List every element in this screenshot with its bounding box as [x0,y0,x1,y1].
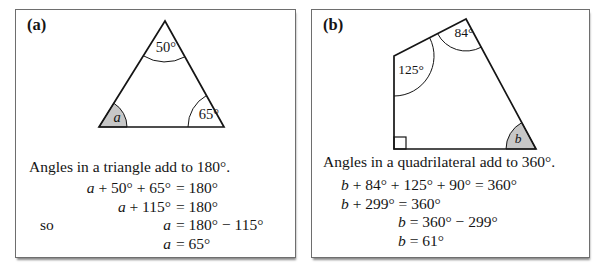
equation-lhs: a + 115° [67,198,171,217]
equation-row: a + 115°= 180° [16,198,295,217]
equation-lhs: a [67,235,171,254]
equation-rhs: = 180° [171,198,295,217]
panel-b: (b) 84° 125° b Angles in a quadrilateral… [311,9,590,258]
equation-row: b = 61° [312,232,589,251]
equation-lhs: a [67,216,171,235]
equation-prefix [40,198,67,217]
equation-row: b + 84° + 125° + 90° = 360° [312,176,589,195]
right-angle-square-icon [394,137,406,149]
panel-a: (a) 50° 65° a Angles in a triangle add t… [15,9,296,258]
angle-label-bottom-left: a [113,109,120,125]
equation-row: b + 299° = 360° [312,195,589,214]
angle-label-top: 84° [455,25,474,40]
equation-rhs: = 180° [171,179,295,198]
equation-prefix [40,179,67,198]
worked-equations: b + 84° + 125° + 90° = 360°b + 299° = 36… [312,176,589,250]
equation-lhs: a + 50° + 65° [67,179,171,198]
equation-prefix [40,235,67,254]
rule-statement: Angles in a quadrilateral add to 360°. [312,153,589,171]
equation-rhs: = 65° [171,235,295,254]
equation-row: a= 65° [16,235,295,254]
equation-row: b = 360° − 299° [312,213,589,232]
angle-label-left: 125° [398,62,424,77]
equation-rhs: = 180° − 115° [171,216,295,235]
triangle-figure: 50° 65° a [16,10,294,144]
quadrilateral-figure: 84° 125° b [312,10,588,154]
angle-label-apex: 50° [156,39,177,55]
equation-row: soa= 180° − 115° [16,216,295,235]
worked-equations: a + 50° + 65°= 180°a + 115°= 180°soa= 18… [16,179,295,253]
rule-statement: Angles in a triangle add to 180°. [16,158,295,176]
equation-row: a + 50° + 65°= 180° [16,179,295,198]
angle-label-bottom-right: 65° [199,106,220,122]
angle-arc-apex [143,56,185,62]
angle-label-bottom-right: b [515,131,522,146]
equation-prefix: so [40,216,67,235]
textbook-page: { "colors": { "panel_border": "#6e6e6e",… [0,0,606,277]
